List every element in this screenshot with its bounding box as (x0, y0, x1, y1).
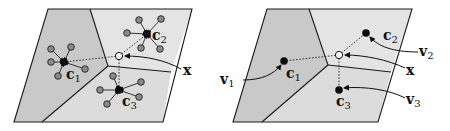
member-point (48, 46, 55, 53)
query-point-x (335, 51, 342, 58)
member-point (138, 45, 145, 52)
member-point (158, 16, 165, 23)
label-v2: v2 (418, 43, 434, 61)
centroid-c2 (362, 29, 370, 37)
label-v1: v1 (219, 71, 235, 89)
member-point (68, 44, 75, 51)
member-point (157, 46, 164, 53)
member-point (104, 101, 111, 108)
member-point (48, 59, 55, 66)
centroid-c2 (143, 30, 151, 38)
label-x: x (183, 62, 192, 78)
voronoi-quantization-figure: c1 c2 c3 x (0, 0, 450, 131)
left-panel: c1 c2 c3 x (14, 9, 192, 122)
label-v3: v3 (405, 91, 421, 109)
right-panel: c1 c2 c3 x v1 v2 v3 (219, 9, 434, 122)
query-point-x (115, 52, 122, 59)
member-point (97, 87, 104, 94)
member-point (138, 79, 145, 86)
member-point (55, 73, 62, 80)
member-point (124, 30, 131, 37)
diagram-canvas: c1 c2 c3 x (0, 0, 450, 131)
centroid-c1 (280, 57, 288, 65)
member-point (82, 66, 89, 73)
member-point (110, 73, 117, 80)
label-x: x (406, 62, 415, 78)
member-point (136, 17, 143, 24)
centroid-c1 (60, 58, 68, 66)
